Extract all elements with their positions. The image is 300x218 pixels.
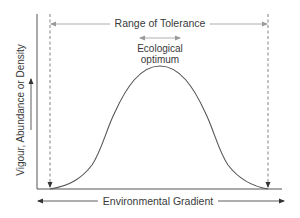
ecological-optimum-label: Ecological optimum	[137, 43, 183, 65]
tolerance-curve	[50, 66, 268, 189]
optimum-label-line2: optimum	[137, 54, 183, 65]
y-axis-label: Vigour, Abundance or Density	[16, 44, 26, 176]
tolerance-diagram: Range of Tolerance Ecological optimum En…	[0, 0, 300, 218]
optimum-label-line1: Ecological	[137, 43, 183, 54]
diagram-canvas	[0, 0, 300, 218]
x-axis-label: Environmental Gradient	[98, 196, 218, 207]
range-of-tolerance-label: Range of Tolerance	[111, 18, 210, 29]
